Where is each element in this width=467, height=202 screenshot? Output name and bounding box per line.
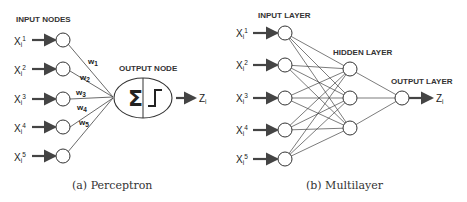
hidden-node	[343, 121, 357, 135]
perceptron-input-4: Xi4	[14, 120, 70, 135]
output-node: Σ	[114, 78, 172, 118]
svg-text:Xi2: Xi2	[14, 64, 26, 77]
multilayer-diagram: INPUT LAYER HIDDEN LAYER OUTPUT LAYER Xi…	[236, 11, 453, 166]
output-label: Zi	[199, 93, 207, 105]
output-node	[395, 91, 409, 105]
svg-text:Xi3: Xi3	[14, 93, 26, 106]
perceptron-input-5: Xi5	[14, 149, 70, 164]
svg-text:w1: w1	[87, 57, 98, 67]
svg-text:w2: w2	[79, 73, 90, 83]
svg-text:Xi5: Xi5	[14, 151, 26, 164]
svg-text:Xi5: Xi5	[236, 153, 248, 166]
hidden-layer-title: HIDDEN LAYER	[333, 48, 392, 57]
svg-text:Xi4: Xi4	[14, 122, 26, 135]
input-layer-title: INPUT LAYER	[258, 11, 311, 20]
caption-multilayer: (b) Multilayer	[306, 179, 383, 192]
input-node	[278, 123, 292, 137]
svg-text:Xi1: Xi1	[236, 27, 248, 40]
input-nodes-title: INPUT NODES	[16, 15, 71, 24]
sum-icon: Σ	[128, 86, 143, 111]
perceptron-input-2: Xi2	[14, 62, 70, 77]
svg-text:w5: w5	[78, 118, 89, 128]
multilayer-input-3: Xi3	[236, 91, 292, 105]
hidden-node	[343, 62, 357, 76]
svg-text:w3: w3	[75, 88, 86, 98]
output-layer-title: OUTPUT LAYER	[391, 77, 453, 86]
input-node	[56, 33, 70, 47]
neural-network-diagram: INPUT NODES Xi1 Xi2 Xi3 Xi4	[0, 0, 467, 202]
hidden-node	[343, 91, 357, 105]
perceptron-input-3: Xi3	[14, 92, 70, 106]
input-node	[278, 26, 292, 40]
input-node	[278, 58, 292, 72]
svg-text:Xi2: Xi2	[236, 59, 248, 72]
output-label: Zi	[436, 93, 444, 105]
input-node	[56, 62, 70, 76]
perceptron-diagram: INPUT NODES Xi1 Xi2 Xi3 Xi4	[14, 15, 207, 164]
multilayer-input-4: Xi4	[236, 123, 292, 137]
output-node-title: OUTPUT NODE	[119, 64, 178, 73]
input-node	[278, 91, 292, 105]
multilayer-input-5: Xi5	[236, 152, 292, 166]
svg-text:Xi3: Xi3	[236, 92, 248, 105]
input-node	[56, 92, 70, 106]
input-node	[278, 152, 292, 166]
input-node	[56, 120, 70, 134]
perceptron-input-1: Xi1	[14, 33, 70, 48]
svg-text:Xi1: Xi1	[14, 35, 26, 48]
multilayer-input-2: Xi2	[236, 58, 292, 72]
multilayer-input-1: Xi1	[236, 26, 292, 40]
input-node	[56, 149, 70, 163]
caption-perceptron: (a) Perceptron	[72, 179, 152, 192]
svg-text:w4: w4	[76, 103, 87, 113]
svg-text:Xi4: Xi4	[236, 124, 248, 137]
weight-labels: w1 w2 w3 w4 w5	[75, 57, 98, 128]
